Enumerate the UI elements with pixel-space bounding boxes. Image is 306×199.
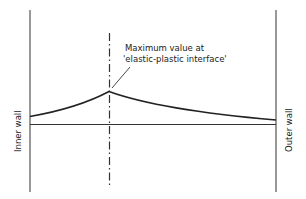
annotation-leader: [112, 67, 130, 88]
outer-wall-label: Outer wall: [284, 108, 294, 152]
wall-profile-diagram: Maximum value at 'elastic-plastic interf…: [0, 0, 306, 199]
profile-curve: [30, 92, 276, 121]
inner-wall-label: Inner wall: [13, 110, 23, 152]
annotation-line-2: 'elastic-plastic interface': [123, 54, 227, 64]
annotation-line-1: Maximum value at: [125, 43, 205, 53]
